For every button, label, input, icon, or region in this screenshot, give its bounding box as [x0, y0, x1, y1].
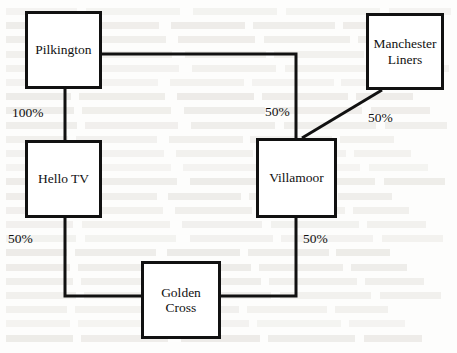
- edge-label-villamoor-golden_cross: 50%: [303, 231, 328, 247]
- edge-label-manchester_liners-villamoor: 50%: [368, 110, 393, 126]
- node-label: Villamoor: [269, 170, 324, 185]
- node-label: Pilkington: [35, 42, 91, 57]
- node-manchester_liners: ManchesterLiners: [366, 13, 444, 90]
- node-villamoor: Villamoor: [256, 138, 337, 218]
- node-golden_cross: GoldenCross: [141, 261, 221, 339]
- node-label: ManchesterLiners: [374, 36, 437, 66]
- edge-label-hello_tv-golden_cross: 50%: [8, 231, 33, 247]
- node-label: GoldenCross: [161, 285, 201, 315]
- ownership-diagram-figure: PilkingtonManchesterLinersHello TVVillam…: [0, 0, 457, 353]
- edge-hello-tv-golden-cross: [65, 218, 141, 296]
- edge-label-pilkington-hello_tv: 100%: [12, 105, 44, 121]
- node-pilkington: Pilkington: [25, 11, 102, 89]
- node-hello_tv: Hello TV: [25, 140, 102, 218]
- edge-pilkington-villamoor: [102, 54, 296, 138]
- node-label: Hello TV: [38, 171, 89, 186]
- edge-label-pilkington-villamoor: 50%: [265, 104, 290, 120]
- edge-villamoor-golden-cross: [221, 218, 296, 296]
